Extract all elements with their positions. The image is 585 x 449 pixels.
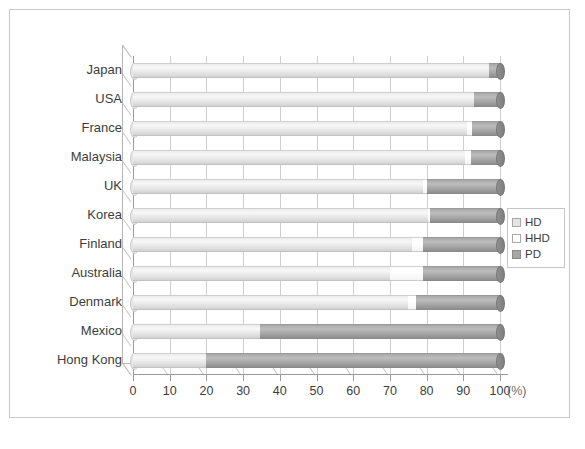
bar-segment-hd[interactable] <box>133 121 467 136</box>
bar-segment-hd[interactable] <box>133 208 428 223</box>
bar-row <box>10 208 571 223</box>
bar-row <box>10 121 571 136</box>
bar-segment-hhd[interactable] <box>412 237 423 252</box>
xtick-label-70: 70 <box>370 384 410 398</box>
bar-row <box>10 295 571 310</box>
bar-right-cap <box>496 208 505 225</box>
chart-frame: HDHHDPD 0102030405060708090100(%)JapanUS… <box>9 9 570 418</box>
xtick-20 <box>206 374 207 381</box>
bar-right-cap <box>496 295 505 312</box>
plot-area: HDHHDPD 0102030405060708090100(%)JapanUS… <box>10 10 571 419</box>
bar-row <box>10 179 571 194</box>
xtick-label-60: 60 <box>333 384 373 398</box>
bar-row <box>10 150 571 165</box>
bar-right-cap <box>496 150 505 167</box>
xtick-100 <box>500 374 501 381</box>
bar-segment-hd[interactable] <box>133 266 390 281</box>
bar-segment-hd[interactable] <box>133 92 474 107</box>
xtick-label-40: 40 <box>260 384 300 398</box>
bar-row <box>10 324 571 339</box>
bar-segment-pd[interactable] <box>430 208 500 223</box>
bar-right-cap <box>496 179 505 196</box>
bar-segment-pd[interactable] <box>423 237 500 252</box>
bar-segment-hhd[interactable] <box>408 295 415 310</box>
bar-segment-hd[interactable] <box>133 295 408 310</box>
xtick-0 <box>133 374 134 381</box>
xtick-label-0: 0 <box>113 384 153 398</box>
bar-right-cap <box>496 92 505 109</box>
bar-segment-pd[interactable] <box>206 353 500 368</box>
xtick-label-50: 50 <box>297 384 337 398</box>
x-axis-unit-label: (%) <box>507 384 526 398</box>
bar-right-cap <box>496 121 505 138</box>
bar-right-cap <box>496 266 505 283</box>
y-tick-depth-0 <box>122 45 131 58</box>
xtick-label-90: 90 <box>443 384 483 398</box>
bar-row <box>10 63 571 78</box>
xtick-60 <box>353 374 354 381</box>
bar-row <box>10 353 571 368</box>
bar-segment-pd[interactable] <box>423 266 500 281</box>
bar-row <box>10 266 571 281</box>
bar-segment-hd[interactable] <box>133 63 489 78</box>
xtick-90 <box>463 374 464 381</box>
bar-segment-pd[interactable] <box>416 295 500 310</box>
bar-row <box>10 237 571 252</box>
xtick-10 <box>170 374 171 381</box>
bar-segment-hd[interactable] <box>133 324 260 339</box>
xtick-label-10: 10 <box>150 384 190 398</box>
xtick-label-80: 80 <box>407 384 447 398</box>
xtick-30 <box>243 374 244 381</box>
bar-segment-pd[interactable] <box>260 324 500 339</box>
bar-right-cap <box>496 353 505 370</box>
xtick-50 <box>317 374 318 381</box>
bar-segment-hd[interactable] <box>133 179 423 194</box>
xtick-label-30: 30 <box>223 384 263 398</box>
x-axis-line <box>133 374 508 375</box>
xtick-40 <box>280 374 281 381</box>
xtick-label-20: 20 <box>186 384 226 398</box>
bar-segment-hd[interactable] <box>133 353 206 368</box>
bar-row <box>10 92 571 107</box>
xtick-70 <box>390 374 391 381</box>
bar-right-cap <box>496 324 505 341</box>
bar-right-cap <box>496 63 505 80</box>
xtick-80 <box>427 374 428 381</box>
bar-segment-hd[interactable] <box>133 150 465 165</box>
bar-segment-pd[interactable] <box>427 179 500 194</box>
bar-segment-hd[interactable] <box>133 237 412 252</box>
bar-segment-hhd[interactable] <box>390 266 423 281</box>
bar-right-cap <box>496 237 505 254</box>
